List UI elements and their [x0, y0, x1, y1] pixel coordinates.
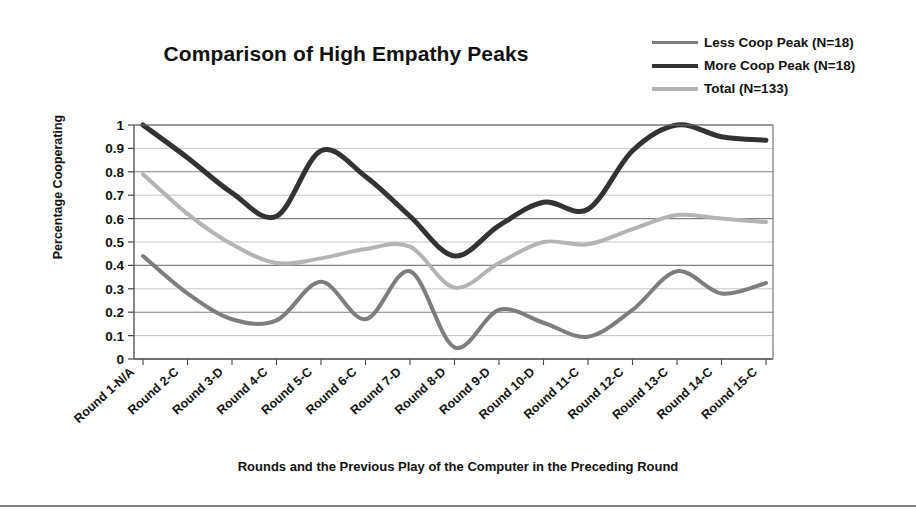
svg-text:0.8: 0.8 [105, 165, 124, 180]
svg-text:0.7: 0.7 [105, 188, 124, 203]
x-axis-tick-labels: Round 1-N/ARound 2-CRound 3-DRound 4-CRo… [71, 365, 760, 426]
svg-text:0.6: 0.6 [105, 212, 124, 227]
svg-text:Round 1-N/A: Round 1-N/A [71, 365, 137, 426]
series-line [143, 125, 766, 256]
page-bottom-rule [0, 505, 916, 507]
svg-text:0.4: 0.4 [105, 258, 124, 273]
svg-text:0.3: 0.3 [105, 282, 124, 297]
series-line [143, 256, 766, 348]
chart-figure: Comparison of High Empathy Peaks Less Co… [0, 0, 916, 517]
svg-text:1: 1 [116, 118, 124, 133]
y-axis-tick-labels: 10.90.80.70.60.50.40.30.20.10 [105, 118, 124, 367]
data-series [143, 125, 766, 348]
svg-text:0.9: 0.9 [105, 141, 124, 156]
plot-area: 10.90.80.70.60.50.40.30.20.10 Round 1-N/… [0, 0, 916, 517]
svg-text:0.1: 0.1 [105, 329, 124, 344]
svg-text:0: 0 [116, 352, 124, 367]
x-axis-ticks [143, 359, 766, 365]
svg-text:0.5: 0.5 [105, 235, 124, 250]
svg-text:0.2: 0.2 [105, 305, 124, 320]
